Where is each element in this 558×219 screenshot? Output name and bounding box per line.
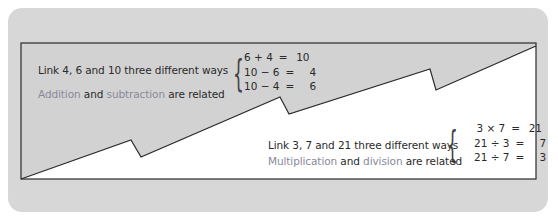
equation-equals: = xyxy=(513,136,527,151)
equation-rhs: 4 xyxy=(300,65,316,80)
lower-equations: 3 × 7 = 21 21 ÷ 3 = 7 21 ÷ 7 = 3 xyxy=(474,121,542,165)
equation-rhs: 10 xyxy=(294,50,310,65)
equation-row: 21 ÷ 3 = 7 xyxy=(474,136,542,151)
equation-equals: = xyxy=(283,79,297,94)
equation-equals: = xyxy=(283,65,297,80)
equation-lhs: 3 × 7 xyxy=(476,121,505,136)
relation-term-division: division xyxy=(363,155,402,167)
relation-and: and xyxy=(340,155,359,167)
equation-lhs: 10 − 6 xyxy=(244,65,280,80)
equation-rhs: 7 xyxy=(530,136,546,151)
equation-row: 3 × 7 = 21 xyxy=(474,121,542,136)
relation-term-addition: Addition xyxy=(38,88,81,100)
upper-prompt: Link 4, 6 and 10 three different ways xyxy=(38,64,228,76)
equation-row: 6 + 4 = 10 xyxy=(244,50,304,65)
relation-term-subtraction: subtraction xyxy=(107,88,165,100)
equation-lhs: 6 + 4 xyxy=(244,50,273,65)
equation-lhs: 21 ÷ 7 xyxy=(474,150,510,165)
equation-equals: = xyxy=(509,121,523,136)
upper-equations: 6 + 4 = 10 10 − 6 = 4 10 − 4 = 6 xyxy=(244,50,304,94)
equation-lhs: 21 ÷ 3 xyxy=(474,136,510,151)
equation-equals: = xyxy=(276,50,290,65)
equation-row: 21 ÷ 7 = 3 xyxy=(474,150,542,165)
upper-relation: Addition and subtraction are related xyxy=(38,88,225,100)
equation-rhs: 21 xyxy=(526,121,542,136)
equation-lhs: 10 − 4 xyxy=(244,79,280,94)
equation-equals: = xyxy=(513,150,527,165)
staircase-diagram xyxy=(0,0,558,219)
equation-row: 10 − 4 = 6 xyxy=(244,79,304,94)
equation-rhs: 6 xyxy=(300,79,316,94)
lower-prompt: Link 3, 7 and 21 three different ways xyxy=(268,139,458,151)
upper-brace-icon: { xyxy=(233,51,244,95)
equation-row: 10 − 6 = 4 xyxy=(244,65,304,80)
relation-rest: are related xyxy=(168,88,224,100)
relation-term-multiplication: Multiplication xyxy=(268,155,337,167)
relation-rest: are related xyxy=(406,155,462,167)
equation-rhs: 3 xyxy=(530,150,546,165)
relation-and: and xyxy=(84,88,103,100)
lower-relation: Multiplication and division are related xyxy=(268,155,462,167)
